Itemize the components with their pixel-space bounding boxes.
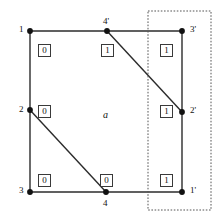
vertex-4 [103, 189, 109, 195]
vertex-label-2p: 2' [190, 106, 196, 115]
orientation-box-top-left: 0 [38, 44, 51, 57]
dotted-selection-rect [148, 11, 211, 210]
vertex-label-1p: 1' [190, 186, 196, 195]
orientation-box-bottom-mid: 0 [100, 174, 113, 187]
vertex-label-4: 4 [103, 199, 108, 208]
face-label-a: a [103, 110, 108, 120]
vertex-3 [27, 189, 33, 195]
vertex-3p [179, 28, 185, 34]
vertex-label-4p: 4' [103, 17, 109, 26]
vertex-label-3: 3 [19, 186, 24, 195]
vertex-1 [27, 28, 33, 34]
orientation-box-bottom-right: 1 [160, 174, 173, 187]
geometry-figure [0, 0, 219, 224]
orientation-box-top-right: 1 [160, 44, 173, 57]
orientation-box-mid-right: 1 [160, 105, 173, 118]
vertex-4p [104, 28, 110, 34]
vertex-1p [179, 189, 185, 195]
vertex-label-3p: 3' [190, 25, 196, 34]
vertex-2p [179, 109, 185, 115]
vertex-label-1: 1 [19, 25, 24, 34]
orientation-box-top-mid: 1 [101, 44, 114, 57]
orientation-box-bottom-left: 0 [38, 174, 51, 187]
vertex-2 [27, 107, 33, 113]
vertex-label-2: 2 [19, 105, 24, 114]
orientation-box-mid-left: 0 [38, 105, 51, 118]
